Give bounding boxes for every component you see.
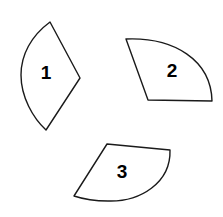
shape-group-1[interactable]: 1 (21, 22, 80, 130)
shape-1-label: 1 (41, 62, 52, 83)
shape-3-label: 3 (117, 161, 128, 182)
figure-canvas: 1 2 3 (0, 0, 223, 217)
shape-group-3[interactable]: 3 (74, 144, 170, 201)
shape-2-label: 2 (167, 60, 178, 81)
shape-group-2[interactable]: 2 (126, 39, 212, 101)
shapes-diagram: 1 2 3 (0, 0, 223, 217)
